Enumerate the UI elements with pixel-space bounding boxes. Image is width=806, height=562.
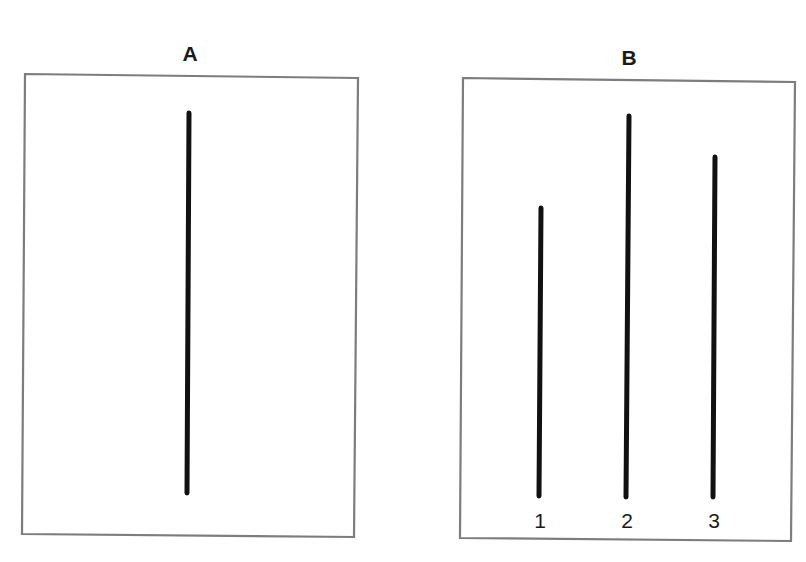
panel-b-title: B	[621, 46, 636, 69]
comparison-label-1: 1	[534, 509, 546, 532]
panel-a: A	[22, 42, 358, 537]
reference-line	[187, 113, 189, 493]
comparison-line-3	[713, 157, 715, 497]
panel-b: B 1 2 3	[460, 46, 795, 541]
comparison-line-1	[539, 208, 541, 496]
comparison-label-2: 2	[621, 509, 633, 532]
panel-a-title: A	[182, 42, 197, 65]
line-judgment-diagram: A B 1 2 3	[0, 0, 806, 562]
comparison-line-2	[626, 116, 629, 497]
comparison-label-3: 3	[708, 509, 720, 532]
